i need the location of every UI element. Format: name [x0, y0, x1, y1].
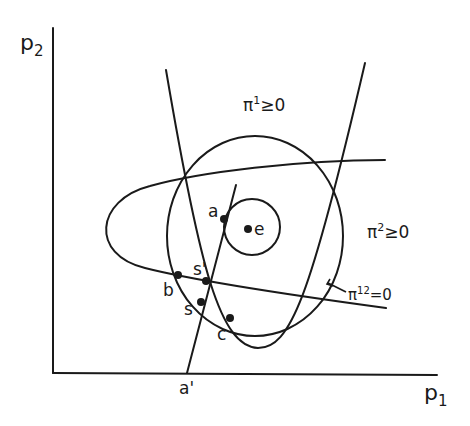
- pi2-region-label: π2≥0: [367, 221, 409, 242]
- label-c: c: [217, 324, 226, 344]
- pi12-loop-curve: [106, 160, 386, 308]
- point-a: [220, 215, 228, 223]
- pi12-curve-label: π12=0: [348, 285, 392, 304]
- diagram-canvas: p2 p1 π1≥0 π2≥0 π12=0 a e s' b s c a': [0, 0, 470, 426]
- label-a-prime: a': [179, 378, 194, 398]
- pi1-region-label: π1≥0: [243, 94, 285, 115]
- x-axis: [53, 373, 437, 375]
- point-s: [197, 298, 205, 306]
- small-circle: [224, 199, 280, 255]
- x-axis-label: p1: [424, 380, 448, 410]
- label-s-prime: s': [193, 259, 207, 279]
- label-e: e: [254, 219, 264, 239]
- label-a: a: [208, 201, 218, 221]
- point-c: [226, 314, 234, 322]
- label-b: b: [163, 280, 174, 300]
- point-b: [174, 271, 182, 279]
- y-axis-label: p2: [20, 30, 44, 60]
- label-s: s: [184, 299, 193, 319]
- point-e: [244, 225, 252, 233]
